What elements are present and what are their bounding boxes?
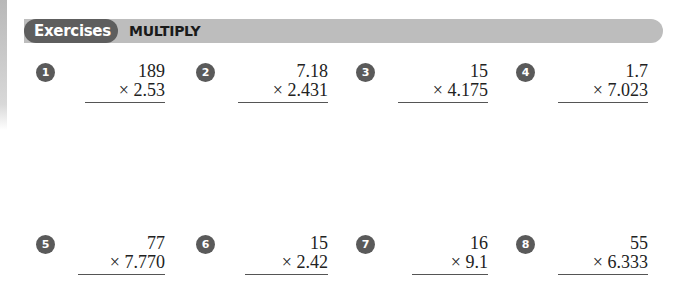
exercise-number-badge: 7 xyxy=(356,235,375,254)
multiplication-problem: 15 × 4.175 xyxy=(398,62,488,103)
multiplicand: 1.7 xyxy=(558,62,648,81)
multiplicand: 55 xyxy=(558,234,648,253)
multiplicand: 15 xyxy=(245,234,328,253)
multiplication-problem: 15 × 2.42 xyxy=(245,234,328,275)
multiplication-problem: 77 × 7.770 xyxy=(78,234,165,275)
exercise-1: 1 189 × 2.53 xyxy=(36,62,186,122)
exercise-4: 4 1.7 × 7.023 xyxy=(516,62,666,122)
exercise-number-badge: 8 xyxy=(516,235,535,254)
multiplicand: 15 xyxy=(398,62,488,81)
exercise-number-badge: 5 xyxy=(36,235,55,254)
exercise-number-badge: 1 xyxy=(36,63,55,82)
multiplicand: 189 xyxy=(85,62,165,81)
multiplicand: 7.18 xyxy=(238,62,328,81)
multiplicand: 16 xyxy=(412,234,488,253)
section-title: MULTIPLY xyxy=(129,19,200,43)
exercise-number-badge: 3 xyxy=(356,63,375,82)
exercise-number-badge: 6 xyxy=(196,235,215,254)
section-banner xyxy=(24,19,663,43)
multiplication-problem: 7.18 × 2.431 xyxy=(238,62,328,103)
multiplier: × 7.023 xyxy=(558,81,648,103)
multiplier: × 4.175 xyxy=(398,81,488,103)
exercise-8: 8 55 × 6.333 xyxy=(516,234,666,294)
multiplier: × 6.333 xyxy=(558,253,648,275)
exercise-6: 6 15 × 2.42 xyxy=(196,234,346,294)
multiplier: × 7.770 xyxy=(78,253,165,275)
multiplicand: 77 xyxy=(78,234,165,253)
multiplication-problem: 55 × 6.333 xyxy=(558,234,648,275)
exercise-number-badge: 2 xyxy=(196,63,215,82)
multiplier: × 9.1 xyxy=(412,253,488,275)
page-edge-shadow xyxy=(0,0,7,130)
multiplication-problem: 16 × 9.1 xyxy=(412,234,488,275)
multiplier: × 2.431 xyxy=(238,81,328,103)
multiplier: × 2.42 xyxy=(245,253,328,275)
exercise-number-badge: 4 xyxy=(516,63,535,82)
exercise-3: 3 15 × 4.175 xyxy=(356,62,506,122)
multiplication-problem: 1.7 × 7.023 xyxy=(558,62,648,103)
multiplication-problem: 189 × 2.53 xyxy=(85,62,165,103)
multiplier: × 2.53 xyxy=(85,81,165,103)
exercises-tag: Exercises xyxy=(24,19,118,43)
exercise-7: 7 16 × 9.1 xyxy=(356,234,506,294)
exercise-5: 5 77 × 7.770 xyxy=(36,234,186,294)
exercise-2: 2 7.18 × 2.431 xyxy=(196,62,346,122)
